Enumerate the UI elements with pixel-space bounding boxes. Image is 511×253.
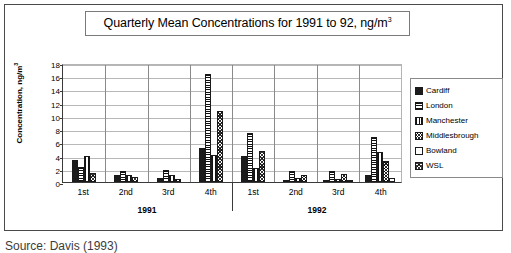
legend-item: WSL — [415, 158, 499, 173]
bar — [90, 173, 96, 182]
x-axis-tick-label: 2nd — [105, 187, 148, 199]
chart-legend: CardiffLondonManchesterMiddlesbroughBowl… — [410, 78, 503, 178]
legend-swatch-icon — [415, 162, 423, 170]
bar — [175, 179, 181, 182]
legend-swatch-icon — [415, 102, 423, 110]
chart-title: Quarterly Mean Concentrations for 1991 t… — [104, 16, 392, 30]
legend-label: Cardiff — [426, 86, 449, 95]
x-axis-tick-label: 3rd — [147, 187, 190, 199]
bar-group — [359, 65, 401, 182]
y-axis-tick-label: 18 — [40, 61, 60, 70]
bar-group — [63, 65, 105, 182]
bar — [389, 178, 395, 182]
x-axis-tick-label: 1st — [62, 187, 105, 199]
legend-label: Middlesbrough — [426, 131, 478, 140]
legend-label: WSL — [426, 161, 443, 170]
bar-group — [148, 65, 190, 182]
legend-item: London — [415, 98, 499, 113]
legend-label: Bowland — [426, 146, 457, 155]
y-axis-tick-label: 6 — [40, 140, 60, 149]
legend-item: Cardiff — [415, 83, 499, 98]
chart-title-text: Quarterly Mean Concentrations for 1991 t… — [104, 17, 388, 31]
bar-group — [317, 65, 359, 182]
source-caption: Source: Davis (1993) — [5, 239, 118, 253]
bar-group — [232, 65, 274, 182]
legend-swatch-icon — [415, 147, 423, 155]
y-axis-tick-mark — [60, 184, 63, 185]
legend-swatch-icon — [415, 87, 423, 95]
y-axis-tick-label: 12 — [40, 100, 60, 109]
x-axis-year-label: 1992 — [232, 205, 402, 217]
y-axis-title-superscript: 3 — [13, 63, 19, 66]
legend-swatch-icon — [415, 132, 423, 140]
y-axis-title-text: Concentration, ng/m — [15, 66, 24, 144]
bar-group — [190, 65, 232, 182]
x-axis-tick-label: 4th — [190, 187, 233, 199]
chart-title-box: Quarterly Mean Concentrations for 1991 t… — [85, 11, 410, 36]
legend-item: Manchester — [415, 113, 499, 128]
y-axis-tick-label: 2 — [40, 166, 60, 175]
y-axis-title: Concentration, ng/m3 — [13, 55, 27, 151]
y-axis-tick-label: 14 — [40, 87, 60, 96]
legend-item: Bowland — [415, 143, 499, 158]
x-axis-tick-label: 1st — [232, 187, 275, 199]
x-axis-year-label: 1991 — [62, 205, 232, 217]
legend-item: Middlesbrough — [415, 128, 499, 143]
legend-swatch-icon — [415, 117, 423, 125]
bar — [301, 175, 307, 182]
x-axis-tick-label: 3rd — [317, 187, 360, 199]
chart-title-superscript: 3 — [388, 16, 392, 23]
legend-label: London — [426, 101, 453, 110]
bar — [347, 180, 353, 182]
y-axis-tick-label: 4 — [40, 153, 60, 162]
x-axis-year-labels: 19911992 — [62, 205, 402, 217]
legend-label: Manchester — [426, 116, 468, 125]
y-axis-tick-label: 16 — [40, 74, 60, 83]
bar — [217, 111, 223, 182]
bar-group — [105, 65, 147, 182]
bar-groups — [63, 65, 401, 182]
y-axis-tick-label: 10 — [40, 113, 60, 122]
plot-area: 024681012141618 — [62, 64, 402, 183]
bar-group — [274, 65, 316, 182]
y-axis-tick-label: 0 — [40, 180, 60, 189]
y-axis-tick-label: 8 — [40, 127, 60, 136]
x-axis-tick-label: 4th — [360, 187, 403, 199]
x-axis-tick-label: 2nd — [275, 187, 318, 199]
bar — [132, 177, 138, 182]
bar — [259, 151, 265, 182]
